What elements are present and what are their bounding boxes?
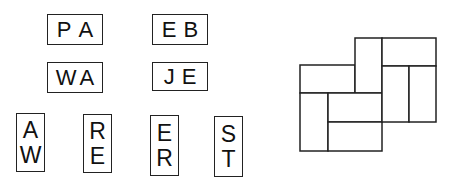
grid-slot[interactable]	[300, 65, 355, 93]
grid-slot[interactable]	[382, 38, 436, 66]
grid-slot[interactable]	[328, 122, 382, 151]
grid-slot[interactable]	[328, 93, 382, 122]
grid-slot[interactable]	[409, 66, 436, 122]
grid-slot[interactable]	[382, 66, 409, 122]
grid-slot[interactable]	[300, 93, 328, 151]
grid-slot[interactable]	[355, 38, 382, 93]
puzzle-grid	[0, 0, 449, 181]
